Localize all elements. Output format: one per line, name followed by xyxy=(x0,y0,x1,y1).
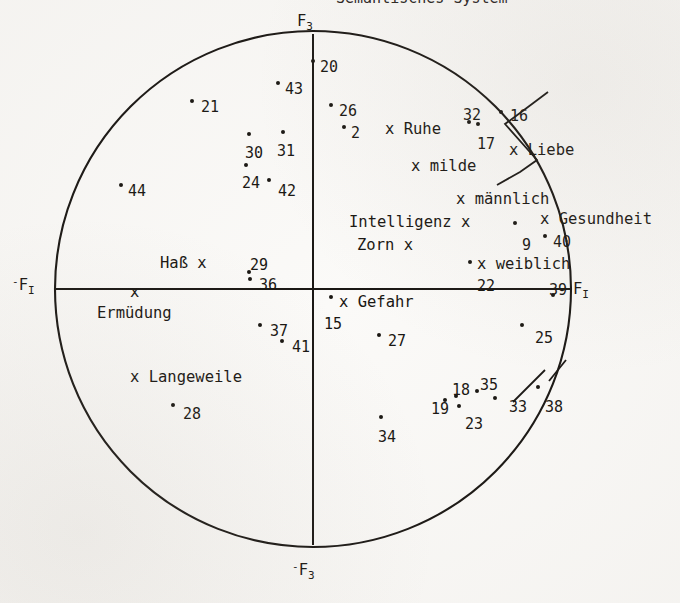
axis-label-bottom-letter: F xyxy=(299,561,308,579)
leader-line-38 xyxy=(549,360,566,381)
concept-term-label: Haß x xyxy=(160,256,207,272)
data-point-marker xyxy=(468,260,472,264)
data-point-label: 19 xyxy=(431,402,449,417)
data-point-label: 15 xyxy=(324,317,342,332)
data-point-marker xyxy=(248,277,252,281)
data-point-label: 36 xyxy=(259,278,277,293)
data-point-marker xyxy=(281,130,285,134)
data-point-label: 18 xyxy=(452,383,470,398)
axis-label-right-sub: I xyxy=(582,288,589,301)
data-point-label: 35 xyxy=(480,378,498,393)
data-point-label: 26 xyxy=(339,104,357,119)
figure-page: Semantisches System 20432126321621730314… xyxy=(0,0,680,603)
axis-label-left-sub: I xyxy=(28,284,35,297)
data-point-marker xyxy=(190,99,194,103)
data-point-label: 16 xyxy=(510,109,528,124)
data-point-marker xyxy=(379,415,383,419)
concept-term-label: x milde xyxy=(411,159,476,175)
concept-term-label: x weiblich xyxy=(477,257,570,273)
data-point-marker xyxy=(475,389,479,393)
data-point-label: 20 xyxy=(320,60,338,75)
concept-term-label: x Liebe xyxy=(509,143,574,159)
data-point-label: 41 xyxy=(292,340,310,355)
data-point-label: 23 xyxy=(465,417,483,432)
data-point-marker xyxy=(543,234,547,238)
data-point-marker xyxy=(493,396,497,400)
axis-label-top-f3: F3 xyxy=(297,14,313,32)
data-point-label: 43 xyxy=(285,82,303,97)
data-point-label: 37 xyxy=(270,324,288,339)
data-point-marker xyxy=(267,178,271,182)
data-point-label: 42 xyxy=(278,184,296,199)
data-point-marker xyxy=(342,125,346,129)
axis-label-right-fi: FI xyxy=(573,282,589,300)
concept-term-label: Ermüdung xyxy=(97,306,172,322)
data-point-label: 2 xyxy=(351,126,360,141)
data-point-marker xyxy=(377,333,381,337)
axis-label-top-sub: 3 xyxy=(306,20,313,33)
clipped-header-text: Semantisches System xyxy=(0,0,680,11)
concept-term-label: Zorn x xyxy=(357,238,413,254)
data-point-marker xyxy=(244,163,248,167)
axis-label-bottom-sign: - xyxy=(292,560,299,573)
clipped-header-label: Semantisches System xyxy=(336,0,508,7)
data-point-marker xyxy=(457,404,461,408)
data-point-marker xyxy=(247,132,251,136)
data-point-label: 34 xyxy=(378,430,396,445)
data-point-marker xyxy=(280,339,284,343)
axis-label-left-sign: - xyxy=(12,275,19,288)
data-point-marker xyxy=(476,122,480,126)
data-point-marker xyxy=(520,323,524,327)
concept-term-label: x Langeweile xyxy=(130,370,242,386)
axis-label-right-letter: F xyxy=(573,280,582,298)
data-point-label: 31 xyxy=(277,144,295,159)
data-point-label: 30 xyxy=(245,146,263,161)
data-point-label: 22 xyxy=(477,279,495,294)
data-point-label: 17 xyxy=(477,137,495,152)
concept-term-label: x Gefahr xyxy=(339,295,414,311)
data-point-marker xyxy=(276,81,280,85)
concept-term-label: x männlich xyxy=(456,192,549,208)
data-point-label: 28 xyxy=(183,407,201,422)
data-point-label: 25 xyxy=(535,331,553,346)
data-point-label: 32 xyxy=(463,108,481,123)
concept-term-label: x Gesundheit xyxy=(540,212,652,228)
data-point-label: 38 xyxy=(545,400,563,415)
data-point-label: 29 xyxy=(250,258,268,273)
axis-label-left-fi: -FI xyxy=(12,276,35,296)
data-point-marker xyxy=(329,295,333,299)
data-point-label: 27 xyxy=(388,334,406,349)
data-point-label: 40 xyxy=(553,235,571,250)
data-point-label: 24 xyxy=(242,176,260,191)
data-point-marker xyxy=(258,323,262,327)
data-point-label: 21 xyxy=(201,100,219,115)
data-point-marker xyxy=(171,403,175,407)
axis-label-top-letter: F xyxy=(297,12,306,30)
data-point-label: 44 xyxy=(128,184,146,199)
concept-term-label: Intelligenz x xyxy=(349,215,470,231)
concept-term-label: x xyxy=(130,285,139,301)
axis-label-bottom-f3: -F3 xyxy=(292,561,315,581)
data-point-marker xyxy=(311,59,315,63)
data-point-marker xyxy=(119,183,123,187)
data-point-marker xyxy=(329,103,333,107)
data-point-label: 39 xyxy=(549,283,567,298)
data-point-marker xyxy=(499,110,503,114)
concept-term-label: x Ruhe xyxy=(385,122,441,138)
data-point-label: 9 xyxy=(522,238,531,253)
axis-label-bottom-sub: 3 xyxy=(308,569,315,582)
data-point-marker xyxy=(513,221,517,225)
data-point-marker xyxy=(536,385,540,389)
axis-label-left-letter: F xyxy=(19,276,28,294)
data-point-label: 33 xyxy=(509,400,527,415)
